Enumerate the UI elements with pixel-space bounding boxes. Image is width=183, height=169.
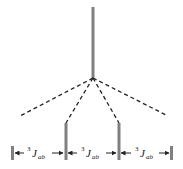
svg-text:3: 3 [27, 145, 31, 153]
parent-peak [92, 7, 95, 78]
coupling-label-3: 3 J ab [135, 145, 154, 161]
svg-text:ab: ab [38, 153, 46, 161]
svg-text:3: 3 [135, 145, 139, 153]
svg-text:3: 3 [81, 145, 85, 153]
coupling-label-1: 3 J ab [27, 145, 46, 161]
child-peak-1 [11, 146, 14, 160]
child-peak-2 [65, 123, 68, 160]
svg-text:ab: ab [92, 153, 100, 161]
splitting-fan [20, 78, 168, 123]
svg-text:ab: ab [146, 153, 154, 161]
coupling-label-2: 3 J ab [81, 145, 100, 161]
child-peak-3 [118, 123, 121, 160]
child-peak-4 [170, 146, 173, 160]
splitting-diagram: 3 J ab 3 J ab 3 J ab [0, 0, 183, 169]
